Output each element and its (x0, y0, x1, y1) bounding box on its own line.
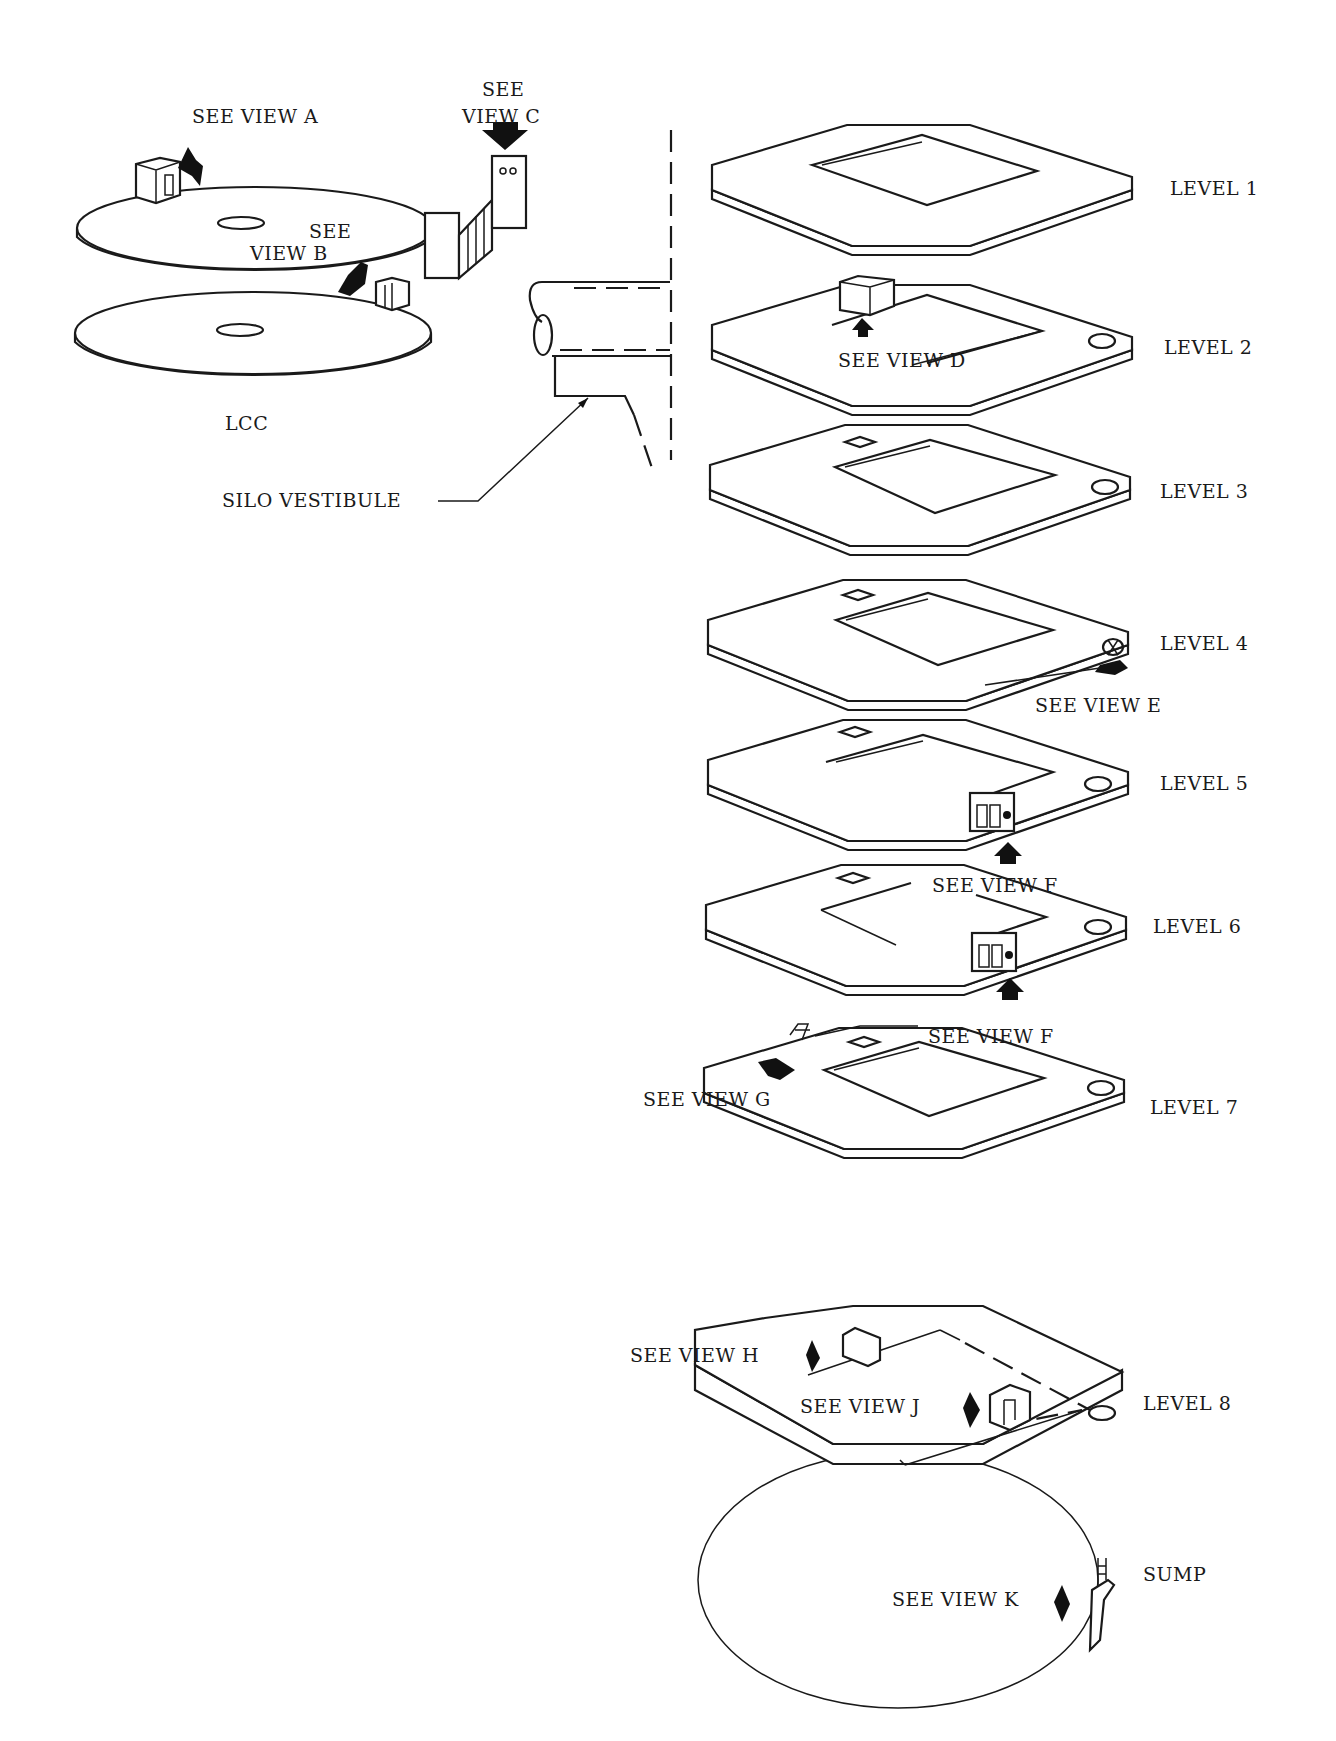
level-6-panel (972, 933, 1016, 971)
sump-ladder (1090, 1558, 1114, 1650)
callout-see-view-a: SEE VIEW A (192, 105, 318, 127)
arrow-view-a-icon (178, 147, 203, 186)
level-8-callout-see-view-j: SEE VIEW J (800, 1395, 920, 1417)
access-structure-view-c (425, 156, 526, 278)
level-5 (708, 720, 1128, 850)
level-7-label: LEVEL 7 (1150, 1096, 1238, 1118)
sump-label: SUMP (1143, 1563, 1206, 1585)
level-2-equipment-box (840, 276, 894, 315)
silo-vestibule-label: SILO VESTIBULE (222, 489, 401, 511)
callout-see-view-b-line2: VIEW B (249, 242, 328, 264)
level-3-label: LEVEL 3 (1160, 480, 1248, 502)
lcc-label: LCC (225, 412, 268, 434)
sump (698, 1452, 1098, 1708)
arrow-view-k-icon (1054, 1585, 1070, 1622)
level-2-label: LEVEL 2 (1164, 336, 1252, 358)
level-6 (706, 865, 1126, 995)
level-4-label: LEVEL 4 (1160, 632, 1248, 654)
level-5-panel (970, 793, 1014, 831)
level-3 (710, 425, 1130, 555)
equipment-box-view-a (136, 158, 180, 203)
level-8 (695, 1306, 1122, 1465)
level-5-label: LEVEL 5 (1160, 772, 1248, 794)
callout-see-view-b-line1: SEE (309, 220, 351, 242)
arrow-view-b-icon (338, 262, 368, 296)
lcc-assembly: SEE VIEW A SEE VIEW C SEE VIEW B LCC (75, 78, 540, 434)
level-6-callout-see-view-f: SEE VIEW F (932, 874, 1058, 896)
silo-levels-diagram: SEE VIEW A SEE VIEW C SEE VIEW B LCC SIL… (0, 0, 1336, 1741)
level-1-label: LEVEL 1 (1170, 177, 1258, 199)
level-4 (708, 580, 1128, 710)
level-8-label: LEVEL 8 (1143, 1392, 1231, 1414)
callout-see-view-c-line1: SEE (482, 78, 524, 100)
vestibule-leader-line (438, 398, 588, 501)
arrow-view-f-upper-icon (994, 842, 1022, 864)
level-7-callout-see-view-f: SEE VIEW F (928, 1025, 1054, 1047)
level-1 (712, 125, 1132, 255)
level-8-callout-see-view-h: SEE VIEW H (630, 1344, 759, 1366)
sump-callout-see-view-k: SEE VIEW K (892, 1588, 1019, 1610)
level-7-callout-see-view-g: SEE VIEW G (643, 1088, 771, 1110)
level-6-label: LEVEL 6 (1153, 915, 1241, 937)
level-4-callout-see-view-e: SEE VIEW E (1035, 694, 1161, 716)
callout-see-view-c-line2: VIEW C (461, 105, 540, 127)
level-2-callout-see-view-d: SEE VIEW D (838, 349, 966, 371)
equipment-box-view-b (376, 278, 409, 310)
